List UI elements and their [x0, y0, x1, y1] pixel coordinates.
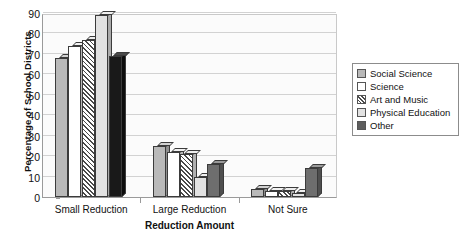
legend: Social ScienceScienceArt and MusicPhysic… — [352, 63, 459, 136]
x-category-label: Large Reduction — [153, 204, 226, 215]
y-tick-label: 90 — [28, 9, 40, 20]
y-tick-label: 40 — [28, 111, 40, 122]
bar-chart: Percentage of School Districts 010203040… — [0, 0, 464, 239]
legend-item[interactable]: Art and Music — [357, 93, 455, 106]
plot-area — [42, 14, 337, 198]
legend-label: Physical Education — [370, 108, 450, 118]
legend-label: Other — [370, 121, 394, 131]
legend-item[interactable]: Physical Education — [357, 106, 455, 119]
bar — [251, 185, 264, 197]
legend-item[interactable]: Other — [357, 119, 455, 132]
legend-label: Science — [370, 82, 404, 92]
bar-front-face — [265, 191, 278, 197]
bar-group — [43, 15, 338, 197]
y-tick-label: 60 — [28, 70, 40, 81]
y-axis-tick-labels: 0102030405060708090 — [18, 0, 40, 239]
legend-swatch-icon — [357, 69, 366, 78]
bars-layer — [43, 15, 336, 197]
x-tick-mark — [140, 198, 141, 203]
legend-swatch-icon — [357, 82, 366, 91]
bar-front-face — [278, 191, 291, 197]
x-axis-category-labels: Small ReductionLarge ReductionNot Sure — [42, 204, 337, 218]
legend-swatch-icon — [357, 95, 366, 104]
bar-front-face — [251, 189, 264, 197]
legend-swatch-icon — [357, 108, 366, 117]
legend-label: Art and Music — [370, 95, 428, 105]
bar-front-face — [305, 168, 318, 197]
x-category-label: Small Reduction — [55, 204, 128, 215]
gridline — [43, 12, 336, 13]
legend-label: Social Science — [370, 69, 432, 79]
y-tick-label: 30 — [28, 131, 40, 142]
x-tick-mark — [239, 198, 240, 203]
bar — [278, 187, 291, 197]
bar — [265, 187, 278, 197]
y-tick-label: 20 — [28, 152, 40, 163]
y-tick-label: 80 — [28, 29, 40, 40]
y-tick-label: 0 — [34, 193, 40, 204]
legend-item[interactable]: Science — [357, 80, 455, 93]
bar — [305, 164, 318, 197]
legend-swatch-icon — [357, 121, 366, 130]
x-category-label: Not Sure — [268, 204, 307, 215]
y-tick-label: 10 — [28, 172, 40, 183]
bar-side-face — [318, 164, 322, 197]
y-tick-label: 50 — [28, 91, 40, 102]
bar — [292, 189, 305, 197]
bar-front-face — [292, 193, 305, 197]
y-tick-label: 70 — [28, 50, 40, 61]
legend-item[interactable]: Social Science — [357, 67, 455, 80]
x-axis-title: Reduction Amount — [42, 220, 337, 231]
